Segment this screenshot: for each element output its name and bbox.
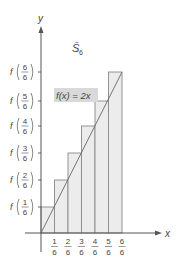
x-tick-5: 5 6 <box>105 237 112 257</box>
y-tick-5: f 5 6 <box>10 92 33 111</box>
x-tick-labels: 1 6 2 6 3 6 4 6 5 6 6 6 <box>51 237 126 257</box>
svg-text:5: 5 <box>106 237 111 246</box>
svg-text:4: 4 <box>93 237 98 246</box>
svg-text:6: 6 <box>120 237 125 246</box>
upper-sum-diagram: y x S̄ 6 f(x) = 2x 1 6 2 6 3 6 4 6 5 <box>0 0 179 270</box>
x-tick-6: 6 6 <box>119 237 126 257</box>
y-tick-labels: f 6 6 f 5 6 f 4 6 f 3 <box>10 63 33 217</box>
svg-text:6: 6 <box>23 154 28 163</box>
y-axis-label: y <box>37 13 44 24</box>
svg-text:f: f <box>10 175 14 185</box>
svg-text:6: 6 <box>120 248 125 257</box>
svg-text:6: 6 <box>23 102 28 111</box>
svg-text:6: 6 <box>23 208 28 217</box>
x-axis-arrow-icon <box>155 231 162 236</box>
svg-text:f: f <box>10 121 14 131</box>
svg-text:2: 2 <box>23 171 28 180</box>
svg-text:3: 3 <box>79 237 84 246</box>
svg-text:6: 6 <box>23 127 28 136</box>
svg-text:1: 1 <box>23 198 28 207</box>
rectangle-2 <box>55 180 69 233</box>
x-tick-1: 1 6 <box>51 237 58 257</box>
y-tick-1: f 1 6 <box>10 198 33 217</box>
y-tick-3: f 3 6 <box>10 144 33 163</box>
svg-text:f: f <box>10 96 14 106</box>
svg-text:4: 4 <box>23 117 28 126</box>
svg-text:3: 3 <box>23 144 28 153</box>
svg-text:6: 6 <box>23 73 28 82</box>
diagram-title-subscript: 6 <box>79 49 83 56</box>
svg-text:6: 6 <box>93 248 98 257</box>
svg-text:f: f <box>10 148 14 158</box>
svg-text:2: 2 <box>66 237 71 246</box>
y-tick-6: f 6 6 <box>10 63 33 82</box>
svg-text:6: 6 <box>23 181 28 190</box>
svg-text:6: 6 <box>23 63 28 72</box>
x-tick-4: 4 6 <box>92 237 99 257</box>
svg-text:6: 6 <box>66 248 71 257</box>
x-axis-label: x <box>164 228 171 239</box>
function-label: f(x) = 2x <box>56 90 92 101</box>
svg-text:f: f <box>10 202 14 212</box>
x-tick-3: 3 6 <box>78 237 85 257</box>
svg-text:6: 6 <box>79 248 84 257</box>
rectangle-4 <box>82 126 96 233</box>
svg-text:5: 5 <box>23 92 28 101</box>
rectangle-6 <box>109 72 123 233</box>
y-axis-arrow-icon <box>39 26 44 33</box>
svg-text:1: 1 <box>52 237 57 246</box>
svg-text:f: f <box>10 67 14 77</box>
svg-text:6: 6 <box>52 248 57 257</box>
svg-text:6: 6 <box>106 248 111 257</box>
y-tick-4: f 4 6 <box>10 117 33 136</box>
y-tick-2: f 2 6 <box>10 171 33 190</box>
x-tick-2: 2 6 <box>65 237 72 257</box>
